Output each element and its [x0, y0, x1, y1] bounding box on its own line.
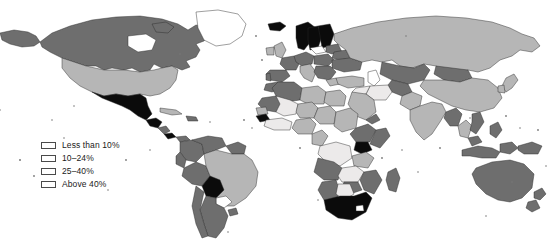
legend-label-above-40: Above 40% [62, 178, 106, 191]
region-sudan [334, 108, 358, 132]
legend-item-1: 10–24% [41, 152, 149, 165]
legend-item-3: Above 40% [41, 178, 149, 191]
world-map-svg [0, 0, 556, 243]
legend-swatch-less-than-10 [41, 142, 56, 149]
legend-item-2: 25–40% [41, 165, 149, 178]
region-lesotho [356, 205, 364, 211]
legend-swatch-above-40 [41, 181, 56, 188]
legend-swatch-25-40 [41, 168, 56, 175]
region-egypt [324, 90, 346, 106]
region-korea [498, 85, 505, 93]
legend-swatch-10-24 [41, 155, 56, 162]
legend-item-0: Less than 10% [41, 139, 149, 152]
region-ireland [266, 47, 274, 55]
region-senegal [256, 107, 268, 115]
world-choropleth-figure: Less than 10% 10–24% 25–40% Above 40% [0, 0, 556, 243]
region-portugal [266, 73, 271, 81]
legend-label-10-24: 10–24% [62, 152, 94, 165]
region-niger [296, 102, 318, 118]
legend-label-25-40: 25–40% [62, 165, 94, 178]
region-nigeria [292, 118, 316, 134]
legend-label-less-than-10: Less than 10% [62, 139, 120, 152]
map-legend: Less than 10% 10–24% 25–40% Above 40% [41, 139, 149, 191]
